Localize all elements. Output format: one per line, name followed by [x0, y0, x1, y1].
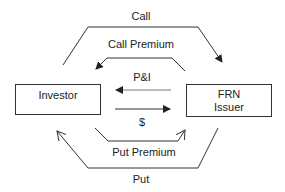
call-premium-label: Call Premium [108, 38, 174, 50]
put-label: Put [133, 173, 150, 185]
call-label: Call [132, 10, 151, 22]
pi-label: P&I [133, 71, 151, 83]
call-premium-arrow [96, 58, 185, 71]
put-premium-label: Put Premium [112, 146, 176, 158]
put-premium-arrow [95, 128, 185, 141]
investor-node: Investor [15, 84, 101, 115]
frn-issuer-node: FRN Issuer [186, 84, 272, 117]
dollar-label: $ [139, 116, 145, 128]
issuer-label-line1: FRN [218, 88, 241, 101]
investor-label: Investor [38, 89, 77, 102]
issuer-label-line2: Issuer [214, 101, 244, 114]
frn-put-call-diagram: Investor FRN Issuer Call Call Premium P&… [0, 0, 285, 192]
